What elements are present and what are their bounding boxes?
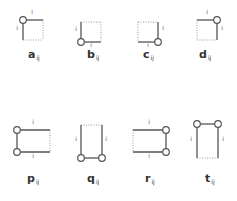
figure-letter: r: [145, 172, 150, 185]
figure-r: ii: [133, 118, 169, 159]
node-circle-icon: [78, 39, 85, 46]
figure-subscript: ij: [36, 54, 39, 61]
figure-letter: b: [87, 48, 95, 61]
figure-a: ii: [16, 8, 43, 40]
figure-label-c: cij: [143, 49, 154, 61]
figure-subscript: ij: [96, 178, 99, 185]
figure-label-d: dij: [199, 49, 211, 61]
figure-p: ii: [14, 118, 50, 159]
figure-label-r: rij: [145, 173, 155, 185]
node-circle-icon: [78, 155, 85, 162]
edge-index-label: i: [148, 152, 150, 159]
node-circle-icon: [215, 121, 222, 128]
figure-subscript: ij: [211, 178, 214, 185]
figure-d: ii: [197, 8, 223, 40]
figure-letter: d: [199, 48, 207, 61]
edge-index-label: i: [190, 135, 192, 142]
node-circle-icon: [99, 155, 106, 162]
figure-label-a: aij: [28, 49, 40, 61]
edge-index-label: i: [162, 24, 164, 31]
node-circle-icon: [14, 127, 21, 134]
edge-index-label: i: [148, 118, 150, 125]
edge-index-label: i: [31, 8, 33, 15]
node-circle-icon: [163, 127, 170, 134]
node-circle-icon: [14, 149, 21, 156]
figure-subscript: ij: [151, 54, 154, 61]
figure-label-t: tij: [205, 173, 215, 185]
edge-index-label: i: [222, 135, 224, 142]
figure-letter: a: [28, 48, 35, 61]
node-circle-icon: [214, 17, 221, 24]
figure-c: ii: [138, 22, 164, 48]
figure-subscript: ij: [151, 178, 154, 185]
figure-letter: c: [143, 48, 150, 61]
edge-index-label: i: [221, 24, 223, 31]
figure-subscript: ij: [208, 54, 211, 61]
figure-t: ii: [190, 121, 224, 158]
node-circle-icon: [163, 149, 170, 156]
figure-subscript: ij: [96, 54, 99, 61]
figure-q: ii: [75, 125, 107, 161]
figure-label-q: qij: [87, 173, 99, 185]
figures-svg: iiiiiiiiiiiiiiii: [0, 0, 237, 201]
figure-letter: p: [27, 172, 35, 185]
node-circle-icon: [155, 39, 162, 46]
figure-b: ii: [75, 22, 101, 48]
figure-label-b: bij: [87, 49, 99, 61]
edge-index-label: i: [75, 25, 77, 32]
diagram-canvas: iiiiiiiiiiiiiiii aijbijcijdijpijqijrijti…: [0, 0, 237, 201]
edge-index-label: i: [75, 135, 77, 142]
figure-letter: q: [87, 172, 95, 185]
edge-index-label: i: [206, 8, 208, 15]
edge-index-label: i: [32, 152, 34, 159]
node-circle-icon: [20, 17, 27, 24]
edge-index-label: i: [16, 24, 18, 31]
figure-label-p: pij: [27, 173, 39, 185]
figure-subscript: ij: [36, 178, 39, 185]
edge-index-label: i: [32, 118, 34, 125]
figure-letter: t: [205, 172, 210, 185]
edge-index-label: i: [105, 135, 107, 142]
node-circle-icon: [194, 121, 201, 128]
